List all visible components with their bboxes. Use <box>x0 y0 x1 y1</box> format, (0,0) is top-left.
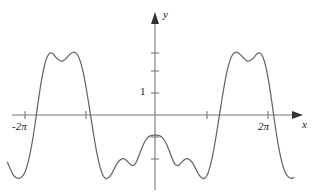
graph-canvas <box>0 0 313 196</box>
y-axis-label: y <box>163 8 168 20</box>
x-axis-label: x <box>302 118 307 130</box>
y-tick-label-1: 1 <box>140 85 146 97</box>
y-axis-arrowhead <box>151 12 159 24</box>
function-graph-figure: y x -2π 2π 1 <box>0 0 313 196</box>
x-tick-label-2pi: 2π <box>258 120 269 132</box>
x-axis-group <box>12 111 303 119</box>
x-tick-label-neg-2pi: -2π <box>12 120 27 132</box>
y-axis-group <box>151 12 159 190</box>
